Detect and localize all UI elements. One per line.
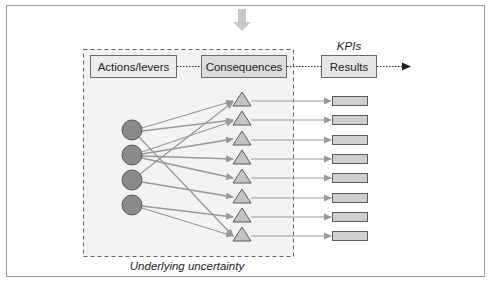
result-bar [333, 194, 368, 203]
action-node [122, 195, 142, 215]
result-bar [333, 136, 368, 145]
result-bar [333, 174, 368, 183]
results-label: Results [330, 61, 369, 73]
kpis-caption: KPIs [337, 40, 362, 52]
uncertainty-caption: Underlying uncertainty [130, 260, 246, 272]
result-bar [333, 155, 368, 164]
consequences-box: Consequences [202, 56, 287, 78]
actions-levers-box: Actions/levers [91, 56, 177, 78]
action-node [122, 120, 142, 140]
result-bar [333, 97, 368, 106]
consequences-label: Consequences [206, 61, 283, 73]
actions-levers-label: Actions/levers [98, 61, 170, 73]
result-bar [333, 213, 368, 222]
uncertainty-region [84, 50, 294, 257]
result-bar [333, 116, 368, 125]
influence-diagram: Actions/levers Consequences KPIs Results [0, 0, 493, 285]
action-node [122, 145, 142, 165]
arrow-down-icon [233, 9, 251, 31]
action-node [122, 170, 142, 190]
results-box: Results [322, 56, 377, 78]
result-bar [333, 232, 368, 241]
result-bars [333, 97, 368, 241]
